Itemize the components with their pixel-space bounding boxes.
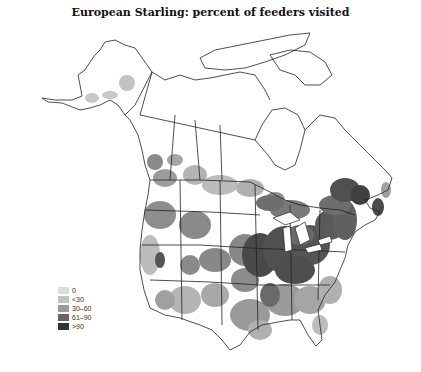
map-legend: 0 <30 30–60 61–90 >90 (58, 286, 91, 331)
legend-swatch (58, 287, 69, 294)
legend-swatch (58, 323, 69, 330)
legend-item-gt90: >90 (58, 322, 91, 331)
legend-label: <30 (72, 295, 84, 304)
legend-item-lt30: <30 (58, 295, 91, 304)
legend-label: 0 (72, 286, 76, 295)
legend-label: >90 (72, 322, 84, 331)
legend-swatch (58, 305, 69, 312)
data-shading (85, 75, 391, 340)
legend-item-61-90: 61–90 (58, 313, 91, 322)
legend-item-0: 0 (58, 286, 91, 295)
legend-label: 61–90 (72, 313, 91, 322)
legend-swatch (58, 296, 69, 303)
legend-item-30-60: 30–60 (58, 304, 91, 313)
legend-swatch (58, 314, 69, 321)
legend-label: 30–60 (72, 304, 91, 313)
